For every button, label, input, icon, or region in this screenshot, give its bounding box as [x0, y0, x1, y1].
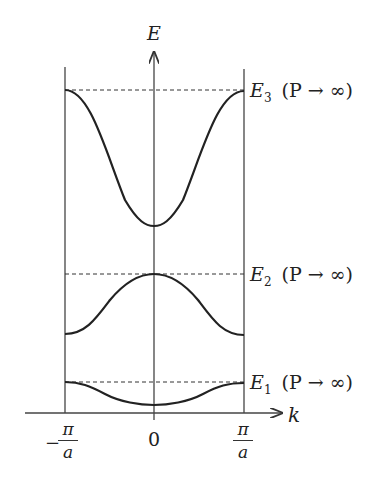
e3-base: E	[250, 79, 264, 101]
e2-base: E	[250, 263, 264, 285]
tick-denominator: a	[233, 443, 253, 461]
e3-label: E3 (P → ∞)	[250, 79, 353, 105]
e1-base: E	[250, 371, 264, 393]
zero-tick: 0	[148, 428, 160, 450]
tick-numerator: π	[58, 420, 78, 438]
e1-condition: (P → ∞)	[282, 371, 353, 393]
e2-condition: (P → ∞)	[282, 263, 353, 285]
band-diagram: E k E3 (P → ∞) E2 (P → ∞) E1 (P → ∞) − π…	[0, 0, 379, 485]
k-axis-label: k	[288, 403, 300, 427]
diagram-canvas	[0, 0, 379, 485]
tick-numerator: π	[233, 420, 253, 438]
e-axis-label: E	[147, 22, 161, 44]
pi-over-a-tick: π a	[233, 420, 253, 461]
e3-condition: (P → ∞)	[282, 79, 353, 101]
e1-label: E1 (P → ∞)	[250, 371, 353, 397]
e1-sub: 1	[264, 383, 272, 397]
e3-sub: 3	[264, 91, 272, 105]
e2-label: E2 (P → ∞)	[250, 263, 353, 289]
e2-sub: 2	[264, 275, 272, 289]
tick-denominator: a	[58, 443, 78, 461]
neg-pi-over-a-tick: π a	[58, 420, 78, 461]
